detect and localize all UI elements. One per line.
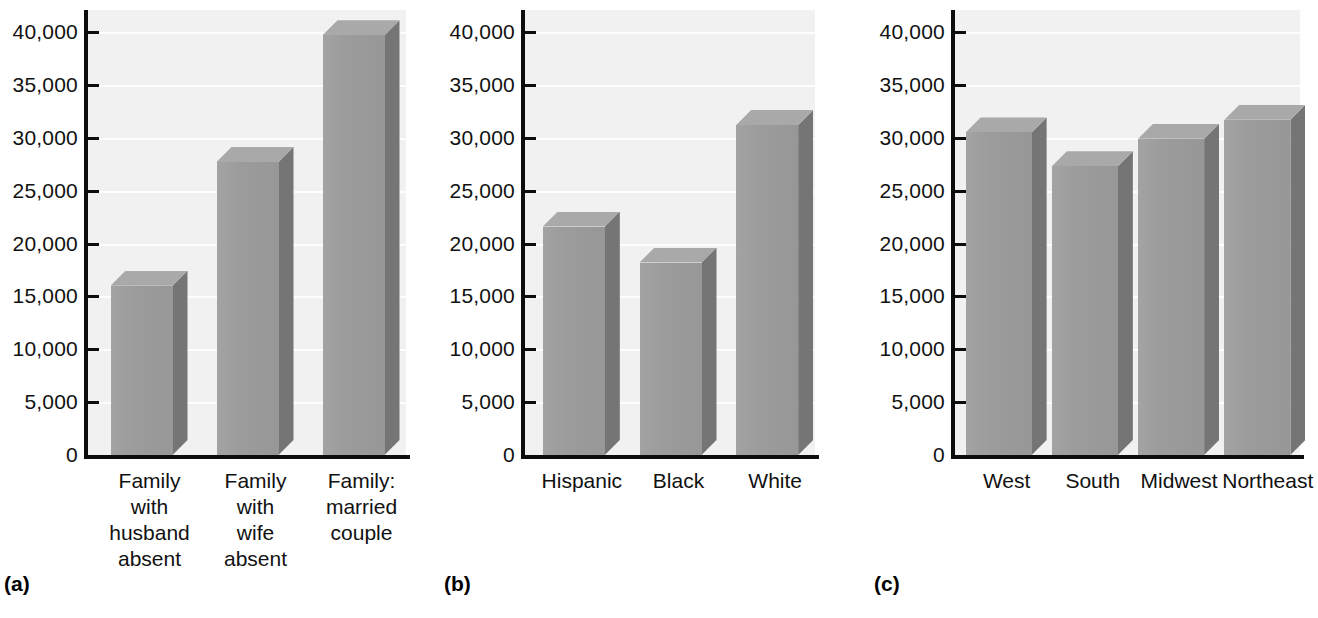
bar [543,212,620,455]
y-axis-tick [955,401,966,404]
bar-chart-figure: Family with husband absentFamily with wi… [0,0,1318,618]
x-axis-label: West [964,468,1050,494]
bar [111,271,188,455]
bar-front-face [1224,120,1290,455]
y-axis-tick-label: 15,000 [0,285,78,306]
y-axis-tick [955,84,966,87]
y-axis-tick [955,137,966,140]
y-axis-line [84,10,88,459]
y-axis-tick-label: 35,000 [355,74,515,95]
y-axis-tick [88,243,99,246]
chart-panel-c: WestSouthMidwestNortheast05,00010,00015,… [870,0,1318,618]
y-axis-tick-label: 40,000 [355,21,515,42]
bar [1052,151,1133,455]
bar-front-face [111,286,173,455]
x-axis-line [951,455,1304,459]
y-axis-tick [955,243,966,246]
x-axis-label: Family with wife absent [203,468,309,572]
x-axis-label: Black [630,468,727,494]
y-axis-tick-label: 40,000 [785,21,945,42]
y-axis-tick [525,243,536,246]
bar [640,248,717,455]
y-axis-tick-label: 10,000 [0,338,78,359]
y-axis-tick-label: 20,000 [355,233,515,254]
y-axis-tick-label: 30,000 [0,127,78,148]
bar-side-face [1118,151,1133,455]
bar-side-face [1290,105,1305,455]
y-axis-tick [525,295,536,298]
y-axis-tick [88,84,99,87]
y-axis-tick [955,348,966,351]
bar [1138,124,1219,455]
y-axis-tick [525,190,536,193]
y-axis-tick-label: 5,000 [785,391,945,412]
x-axis-label: Family: married couple [309,468,415,546]
bar-side-face [173,271,188,455]
y-axis-tick-label: 5,000 [355,391,515,412]
y-axis-tick-label: 20,000 [785,233,945,254]
y-axis-line [951,10,955,459]
gridline [955,85,1300,87]
y-axis-tick-label: 5,000 [0,391,78,412]
gridline [525,32,815,34]
y-axis-tick [525,401,536,404]
y-axis-tick-label: 0 [355,444,515,465]
bar-front-face [1052,166,1118,455]
x-axis-label: Family with husband absent [97,468,203,572]
bar [966,117,1047,455]
y-axis-tick-label: 30,000 [785,127,945,148]
y-axis-tick-label: 20,000 [0,233,78,254]
bar-side-face [279,147,294,455]
y-axis-tick [525,31,536,34]
y-axis-tick [88,295,99,298]
y-axis-tick-label: 15,000 [355,285,515,306]
y-axis-tick-label: 0 [785,444,945,465]
bar-front-face [1138,139,1204,455]
y-axis-tick-label: 15,000 [785,285,945,306]
y-axis-tick [525,84,536,87]
y-axis-line [521,10,525,459]
x-axis-label: Midwest [1136,468,1222,494]
x-axis-label: Northeast [1222,468,1308,494]
y-axis-tick [88,348,99,351]
y-axis-tick-label: 25,000 [785,180,945,201]
bar-side-face [1032,117,1047,455]
bar-side-face [605,212,620,455]
y-axis-tick-label: 25,000 [355,180,515,201]
bar-front-face [543,227,605,455]
y-axis-tick [88,401,99,404]
y-axis-tick [88,31,99,34]
y-axis-tick-label: 40,000 [0,21,78,42]
bar-front-face [217,162,279,455]
gridline [955,32,1300,34]
bar-side-face [1204,124,1219,455]
y-axis-tick [525,137,536,140]
y-axis-tick-label: 10,000 [355,338,515,359]
y-axis-tick [955,31,966,34]
x-axis-label: White [727,468,824,494]
y-axis-tick [88,190,99,193]
y-axis-tick-label: 0 [0,444,78,465]
bar-front-face [640,263,702,455]
x-axis-label: South [1050,468,1136,494]
gridline [525,85,815,87]
y-axis-tick-label: 35,000 [785,74,945,95]
bar [1224,105,1305,455]
y-axis-tick [955,190,966,193]
y-axis-tick [88,137,99,140]
y-axis-tick-label: 35,000 [0,74,78,95]
bar-side-face [702,248,717,455]
y-axis-tick-label: 10,000 [785,338,945,359]
panel-tag: (b) [444,572,471,596]
y-axis-tick [525,348,536,351]
y-axis-tick-label: 25,000 [0,180,78,201]
panel-tag: (c) [874,572,900,596]
bar [217,147,294,455]
y-axis-tick-label: 30,000 [355,127,515,148]
y-axis-tick [955,295,966,298]
x-axis-label: Hispanic [534,468,631,494]
panel-tag: (a) [4,572,30,596]
bar-front-face [966,132,1032,455]
x-axis-line [521,455,819,459]
